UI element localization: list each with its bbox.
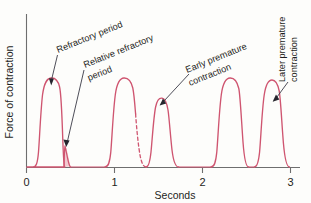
x-axis-label: Seconds [155,189,196,201]
y-axis-label: Force of contraction [3,45,15,138]
x-tick-label-1: 1 [111,176,117,188]
x-tick-label-0: 0 [23,176,29,188]
chart-figure: 0 1 2 3 Seconds Force of contraction [0,0,311,203]
plot-background [0,0,311,203]
annotation-later-premature-contraction-line-2: contraction [289,37,299,82]
contraction-plot-svg: 0 1 2 3 Seconds Force of contraction [0,0,311,203]
x-tick-label-2: 2 [199,176,205,188]
annotation-later-premature-contraction-line-1: Later premature [277,17,287,82]
x-tick-label-3: 3 [287,176,293,188]
